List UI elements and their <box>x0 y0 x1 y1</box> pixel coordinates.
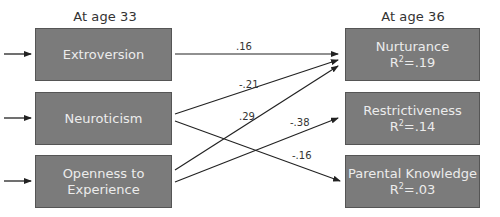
header-age-36: At age 36 <box>343 9 483 24</box>
predictor-box-extroversion: Extroversion <box>35 28 172 81</box>
predictor-box-neuroticism: Neuroticism <box>35 92 172 145</box>
predictor-label: Extroversion <box>63 47 145 63</box>
path-openness-restrictiveness <box>175 118 338 182</box>
header-age-33: At age 33 <box>35 9 175 24</box>
outcome-box-parental-knowledge: Parental Knowledge R2=.03 <box>345 155 480 208</box>
coef-openness-nurturance: .29 <box>239 111 255 122</box>
outcome-label: Nurturance <box>376 39 449 55</box>
coef-neuroticism-parental-knowledge: -.16 <box>292 150 312 161</box>
predictor-label: Neuroticism <box>65 111 143 127</box>
r-squared: R2=.19 <box>390 55 436 71</box>
coef-openness-restrictiveness: -.38 <box>290 117 310 128</box>
outcome-box-restrictiveness: Restrictiveness R2=.14 <box>345 92 480 145</box>
coef-neuroticism-nurturance: -.21 <box>239 79 259 90</box>
predictor-label: Openness to <box>63 166 145 182</box>
r-squared: R2=.03 <box>390 182 436 198</box>
outcome-label: Restrictiveness <box>363 103 462 119</box>
predictor-box-openness: Openness to Experience <box>35 155 172 208</box>
coef-extroversion-nurturance: .16 <box>236 41 252 52</box>
r-squared: R2=.14 <box>390 119 436 135</box>
outcome-label: Parental Knowledge <box>348 166 477 182</box>
outcome-box-nurturance: Nurturance R2=.19 <box>345 28 480 81</box>
predictor-label-line2: Experience <box>67 182 140 198</box>
path-neuroticism-parental-knowledge <box>175 121 340 181</box>
